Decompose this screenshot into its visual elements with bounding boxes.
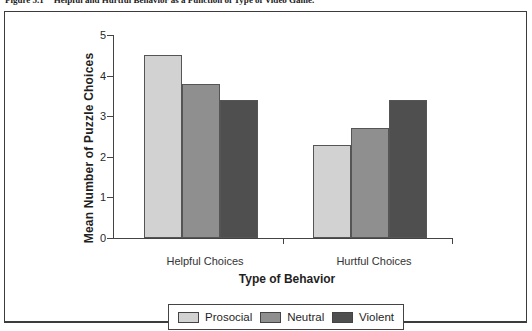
legend-label-violent: Violent <box>359 311 394 323</box>
figure-caption: Figure 5.1Helpful and Hurtful Behavior a… <box>5 0 525 5</box>
figure-page: { "caption": { "label": "Figure 5.1", "t… <box>0 0 532 331</box>
figure-caption-title: Helpful and Hurtful Behavior as a Functi… <box>54 0 315 5</box>
x-tick-label-hurtful: Hurtful Choices <box>304 255 444 267</box>
legend: Prosocial Neutral Violent <box>168 304 404 330</box>
legend-entry-prosocial: Prosocial <box>178 311 252 323</box>
x-axis-title: Type of Behavior <box>187 272 387 286</box>
y-axis-title: Mean Number of Puzzle Choices <box>82 38 98 258</box>
violent-swatch-icon <box>332 312 353 323</box>
legend-entry-neutral: Neutral <box>260 311 324 323</box>
figure-frame: Mean Number of Puzzle Choices Helpful Ch… <box>4 11 527 323</box>
prosocial-swatch-icon <box>178 312 199 323</box>
neutral-swatch-icon <box>260 312 281 323</box>
figure-caption-label: Figure 5.1 <box>5 0 44 5</box>
legend-label-neutral: Neutral <box>287 311 324 323</box>
legend-entry-violent: Violent <box>332 311 394 323</box>
x-tick-label-helpful: Helpful Choices <box>135 255 275 267</box>
legend-label-prosocial: Prosocial <box>205 311 252 323</box>
